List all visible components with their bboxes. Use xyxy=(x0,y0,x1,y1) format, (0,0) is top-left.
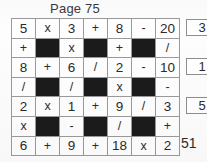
puzzle-cell-operator[interactable]: x xyxy=(12,117,36,137)
puzzle-cell-operator[interactable]: x xyxy=(132,137,156,157)
puzzle-grid: 5x3+8-20+x+/8+6/2-10//x-2x1+9/3x-/+6+9+1… xyxy=(11,18,180,156)
puzzle-cell-operator[interactable]: / xyxy=(156,39,180,59)
puzzle-cell-operator[interactable]: / xyxy=(108,117,132,137)
answer-box-row1[interactable]: 3 xyxy=(186,19,207,36)
puzzle-cell-blocked xyxy=(36,117,60,137)
puzzle-cell-operator[interactable]: + xyxy=(36,58,60,78)
puzzle-cell-blocked xyxy=(132,78,156,98)
puzzle-cell-operator[interactable]: - xyxy=(60,117,84,137)
answer-box-row5[interactable]: 5 xyxy=(186,97,207,114)
puzzle-cell-number[interactable]: 9 xyxy=(108,97,132,117)
puzzle-cell-operator[interactable]: / xyxy=(12,78,36,98)
puzzle-cell-operator[interactable]: - xyxy=(132,58,156,78)
puzzle-cell-operator[interactable]: + xyxy=(36,137,60,157)
puzzle-cell-number[interactable]: 6 xyxy=(60,58,84,78)
puzzle-cell-operator[interactable]: x xyxy=(36,97,60,117)
puzzle-cell-blocked xyxy=(84,117,108,137)
answer-total-row7: 51 xyxy=(181,135,207,151)
puzzle-cell-operator[interactable]: / xyxy=(60,78,84,98)
puzzle-cell-number[interactable]: 10 xyxy=(156,58,180,78)
worksheet-page: Page 75 5x3+8-20+x+/8+6/2-10//x-2x1+9/3x… xyxy=(0,0,207,162)
puzzle-cell-number[interactable]: 5 xyxy=(12,19,36,39)
puzzle-cell-number[interactable]: 8 xyxy=(12,58,36,78)
puzzle-cell-blocked xyxy=(132,117,156,137)
puzzle-cell-number[interactable]: 18 xyxy=(108,137,132,157)
puzzle-cell-blocked xyxy=(36,78,60,98)
puzzle-cell-blocked xyxy=(84,39,108,59)
puzzle-cell-operator[interactable]: + xyxy=(108,39,132,59)
puzzle-cell-blocked xyxy=(84,78,108,98)
puzzle-cell-number[interactable]: 2 xyxy=(108,58,132,78)
puzzle-cell-operator[interactable]: / xyxy=(132,97,156,117)
puzzle-cell-blocked xyxy=(132,39,156,59)
answer-box-row3[interactable]: 1 xyxy=(186,58,207,75)
puzzle-cell-number[interactable]: 1 xyxy=(60,97,84,117)
puzzle-cell-operator[interactable]: x xyxy=(36,19,60,39)
puzzle-cell-number[interactable]: 9 xyxy=(60,137,84,157)
puzzle-cell-blocked xyxy=(36,39,60,59)
puzzle-cell-number[interactable]: 6 xyxy=(12,137,36,157)
puzzle-cell-operator[interactable]: - xyxy=(132,19,156,39)
puzzle-cell-number[interactable]: 3 xyxy=(60,19,84,39)
puzzle-cell-operator[interactable]: + xyxy=(12,39,36,59)
puzzle-cell-operator[interactable]: - xyxy=(156,78,180,98)
puzzle-cell-operator[interactable]: x xyxy=(108,78,132,98)
puzzle-cell-operator[interactable]: / xyxy=(84,58,108,78)
puzzle-cell-number[interactable]: 2 xyxy=(12,97,36,117)
page-title: Page 75 xyxy=(0,1,150,16)
puzzle-cell-number[interactable]: 8 xyxy=(108,19,132,39)
puzzle-cell-operator[interactable]: + xyxy=(156,117,180,137)
puzzle-cell-number[interactable]: 2 xyxy=(156,137,180,157)
puzzle-cell-operator[interactable]: + xyxy=(84,137,108,157)
puzzle-cell-operator[interactable]: + xyxy=(84,97,108,117)
puzzle-cell-operator[interactable]: + xyxy=(84,19,108,39)
puzzle-cell-number[interactable]: 20 xyxy=(156,19,180,39)
puzzle-cell-operator[interactable]: x xyxy=(60,39,84,59)
puzzle-cell-number[interactable]: 3 xyxy=(156,97,180,117)
